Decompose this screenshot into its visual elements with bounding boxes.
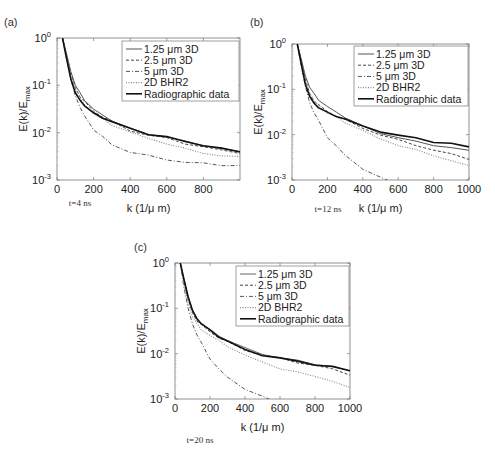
x-tick-label: 600 xyxy=(271,402,289,414)
y-tick-label: 10-1 xyxy=(150,300,169,314)
x-tick-label: 200 xyxy=(201,402,219,414)
y-tick-label: 10-3 xyxy=(150,391,169,405)
legend-entry: 5 μm 3D xyxy=(258,290,298,302)
x-tick-label: 400 xyxy=(236,402,254,414)
x-tick-label: 1000 xyxy=(338,402,362,414)
chart-panel-c: 0200400600800100010-310-210-1100k (1/μ m… xyxy=(0,0,495,459)
legend-entry: Radiographic data xyxy=(258,313,343,325)
y-tick-label: 100 xyxy=(153,255,169,269)
legend-entry: 1.25 μm 3D xyxy=(258,268,313,280)
x-tick-label: 800 xyxy=(306,402,324,414)
x-axis-label: k (1/μ m) xyxy=(241,421,285,433)
x-tick-label: 0 xyxy=(172,402,178,414)
legend-entry: 2.5 μm 3D xyxy=(258,279,307,291)
y-axis-label: E(k)/Emax xyxy=(135,308,150,354)
legend-entry: 2D BHR2 xyxy=(258,301,303,313)
y-tick-label: 10-2 xyxy=(150,346,169,360)
